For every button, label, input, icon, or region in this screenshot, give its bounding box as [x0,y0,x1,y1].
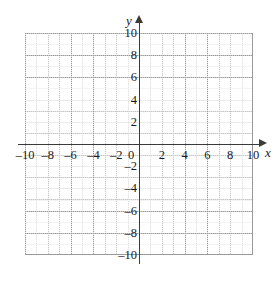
y-axis-line [139,22,140,264]
x-tick-label: 6 [204,149,210,162]
x-tick-label: 2 [159,149,165,162]
y-tick-label: –10 [118,249,137,262]
y-tick-label: –6 [125,204,138,217]
x-tick-label: –6 [64,149,77,162]
y-tick-label: 10 [125,27,138,40]
y-tick-label: –4 [125,182,138,195]
y-tick-label: 2 [131,116,137,129]
x-axis-line [18,144,261,145]
x-tick-label: 8 [227,149,233,162]
y-axis-arrow-icon [135,15,143,23]
y-tick-label: 8 [131,49,137,62]
x-tick-label: –2 [110,149,123,162]
coordinate-plane-figure: x y –10–8–6–4–20246810 108642–2–4–6–8–10 [0,0,278,282]
y-tick-label: –8 [125,227,138,240]
x-tick-label: 10 [247,149,260,162]
y-tick-label: 4 [131,93,137,106]
y-tick-label: 6 [131,71,137,84]
x-tick-label: 4 [181,149,187,162]
x-tick-label: –10 [16,149,35,162]
y-tick-label: –2 [125,160,138,173]
x-tick-label: –8 [42,149,55,162]
x-tick-label: –4 [87,149,100,162]
x-axis-label: x [265,146,271,159]
